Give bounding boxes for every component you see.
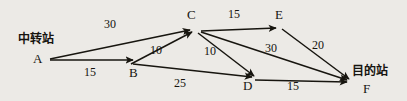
- edge-b-d: [133, 64, 252, 77]
- node-label-a: A: [33, 52, 42, 65]
- edge-weight-b-d: 25: [174, 77, 186, 89]
- node-label-b: B: [129, 66, 138, 79]
- node-label-d: D: [243, 79, 252, 92]
- edge-weight-c-e: 15: [228, 8, 240, 20]
- edge-e-f: [282, 29, 349, 79]
- node-label-f: F: [363, 82, 370, 95]
- node-label-c: C: [187, 8, 196, 21]
- edge-weight-c-f: 30: [265, 42, 277, 54]
- edge-weight-c-d: 10: [204, 45, 216, 57]
- edge-weight-b-c: 10: [150, 44, 162, 56]
- edge-d-f: [255, 80, 347, 82]
- source-station-label: 中转站: [18, 33, 54, 46]
- destination-station-label: 目的站: [352, 65, 388, 78]
- edge-weight-d-f: 15: [287, 80, 299, 92]
- edge-c-e: [201, 28, 276, 31]
- node-label-e: E: [275, 8, 283, 21]
- diagram-canvas: 中转站 目的站 A B C D E F 30 15 10 25 10 15 30…: [0, 0, 407, 101]
- edge-weight-e-f: 20: [312, 39, 324, 51]
- edge-weight-a-b: 15: [84, 66, 96, 78]
- edge-c-f: [201, 32, 347, 80]
- edge-weight-a-c: 30: [104, 18, 116, 30]
